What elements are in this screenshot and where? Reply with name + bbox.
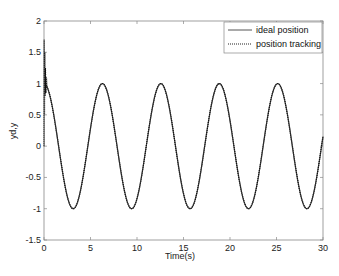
x-tick-label: 25 xyxy=(271,243,281,253)
y-tick-label: 0 xyxy=(36,141,41,151)
y-axis-label: yd,y xyxy=(8,122,18,139)
y-tick-label: 1.5 xyxy=(28,47,41,57)
y-tick-label: 2 xyxy=(36,16,41,26)
legend-item-tracking: position tracking xyxy=(256,39,321,49)
y-tick-label: 1 xyxy=(36,79,41,89)
x-tick-label: 20 xyxy=(225,243,235,253)
x-tick-label: 5 xyxy=(88,243,93,253)
y-tick-label: -1.5 xyxy=(25,235,41,245)
x-axis-label: Time(s) xyxy=(165,251,195,261)
legend: ideal position position tracking xyxy=(224,22,322,53)
y-tick-label: -1 xyxy=(33,204,41,214)
y-tick-labels: -1.5-1-0.500.511.52 xyxy=(25,16,41,245)
line-chart: -1.5-1-0.500.511.52 051015202530 Time(s)… xyxy=(0,0,339,276)
legend-item-ideal: ideal position xyxy=(256,25,309,35)
y-tick-label: 0.5 xyxy=(28,110,41,120)
x-tick-label: 30 xyxy=(318,243,328,253)
x-tick-label: 10 xyxy=(132,243,142,253)
x-tick-label: 0 xyxy=(41,243,46,253)
plot-area xyxy=(44,21,323,240)
y-tick-label: -0.5 xyxy=(25,172,41,182)
